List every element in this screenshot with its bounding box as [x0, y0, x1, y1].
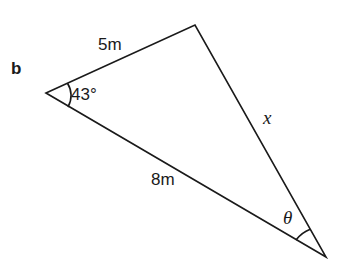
angle-arc-bottom [296, 229, 310, 240]
part-label: b [11, 60, 21, 77]
side-label-right: x [263, 108, 271, 127]
side-label-bottom: 8m [151, 171, 175, 188]
side-label-top: 5m [98, 36, 122, 53]
angle-label-left: 43° [71, 86, 97, 103]
angle-label-bottom: θ [283, 208, 292, 227]
